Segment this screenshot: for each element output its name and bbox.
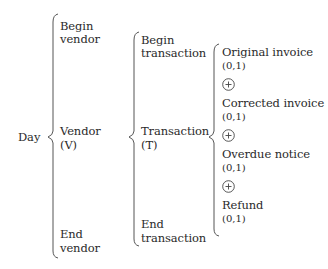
vendor-line1: Vendor: [60, 125, 101, 138]
brace-transaction: [209, 44, 219, 236]
begin-vendor-line2: vendor: [60, 33, 100, 46]
item-corrected-invoice: Corrected invoice: [222, 97, 324, 110]
exclusive-or-icon: [222, 129, 235, 142]
brace-day: [48, 14, 58, 258]
exclusive-or-icon: [222, 180, 235, 193]
item-overdue-notice-cardinality: (0,1): [222, 162, 246, 174]
item-corrected-invoice-cardinality: (0,1): [222, 111, 246, 123]
item-refund: Refund: [222, 199, 263, 212]
end-vendor-line1: End: [60, 228, 83, 241]
item-original-invoice: Original invoice: [222, 46, 313, 59]
item-refund-cardinality: (0,1): [222, 213, 246, 225]
vendor-line2: (V): [60, 139, 77, 152]
exclusive-or-icon: [222, 78, 235, 91]
begin-transaction-line2: transaction: [141, 47, 206, 60]
transaction-line2: (T): [141, 139, 157, 152]
end-transaction-line1: End: [141, 218, 164, 231]
end-transaction-line2: transaction: [141, 232, 206, 245]
end-vendor-line2: vendor: [60, 242, 100, 255]
root-day-label: Day: [18, 131, 40, 144]
transaction-line1: Transaction: [141, 125, 209, 138]
item-overdue-notice: Overdue notice: [222, 148, 310, 161]
brace-vendor: [129, 32, 139, 246]
item-original-invoice-cardinality: (0,1): [222, 60, 246, 72]
